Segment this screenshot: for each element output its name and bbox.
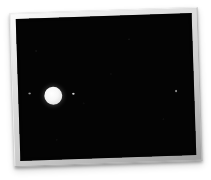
- moon-inner-right: [72, 92, 75, 95]
- photo-caption: [0, 0, 1, 1]
- photo-stage: Night sky astrophotograph of a bright pl…: [0, 0, 211, 180]
- moon-outer-right: [175, 90, 177, 92]
- photo-frame[interactable]: Night sky astrophotograph of a bright pl…: [9, 7, 202, 167]
- moon-outer-left: [28, 93, 30, 95]
- sensor-noise-overlay: [16, 13, 197, 161]
- sky-image[interactable]: Night sky astrophotograph of a bright pl…: [16, 13, 197, 161]
- sky-image-alt-text: Night sky astrophotograph of a bright pl…: [16, 19, 17, 20]
- planet-jupiter: [44, 87, 63, 106]
